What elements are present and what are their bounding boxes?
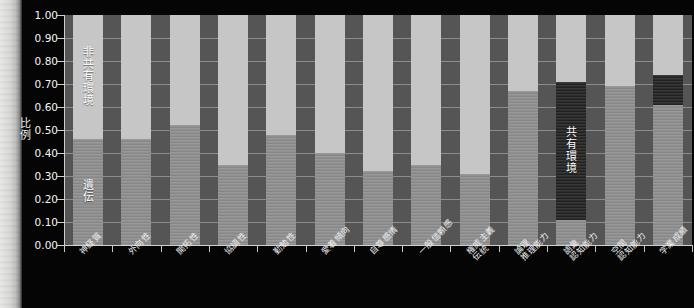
y-axis-tick-label: 0.10 [12, 217, 58, 227]
bar-column[interactable] [653, 15, 683, 245]
y-axis-tick-label: 0.30 [12, 171, 58, 181]
bar-column[interactable] [605, 15, 635, 245]
bar-segment-genetic[interactable] [653, 105, 683, 245]
x-axis-tick-mark [595, 246, 596, 252]
plot-area: 遺伝非共有環境共有環境 [64, 15, 692, 245]
bar-column[interactable] [363, 15, 393, 245]
annotation-char: 境 [564, 163, 578, 175]
bar-segment-genetic[interactable] [508, 91, 538, 245]
y-axis-tick-mark [56, 15, 64, 16]
x-axis-tick-mark [306, 246, 307, 252]
bar-segment-nonshared-env[interactable] [605, 15, 635, 86]
bar-column[interactable] [121, 15, 151, 245]
y-axis-tick-mark [56, 61, 64, 62]
bar-column[interactable] [315, 15, 345, 245]
y-axis-tick-label: 0.40 [12, 148, 58, 158]
x-axis-tick-mark [209, 246, 210, 252]
segment-annotation: 非共有環境 [81, 47, 95, 107]
y-axis-tick-label: 1.00 [12, 10, 58, 20]
x-axis-tick-mark [112, 246, 113, 252]
annotation-char: 境 [81, 95, 95, 107]
bar-segment-nonshared-env[interactable] [411, 15, 441, 165]
x-axis-tick-mark [547, 246, 548, 252]
x-axis-tick-mark [257, 246, 258, 252]
bar-segment-nonshared-env[interactable]: 非共有環境 [73, 15, 103, 139]
bar-segment-genetic[interactable]: 遺伝 [73, 139, 103, 245]
y-axis-tick-mark [56, 245, 64, 246]
segment-annotation: 共有環境 [564, 127, 578, 175]
bar-segment-nonshared-env[interactable] [218, 15, 248, 165]
x-axis-tick-mark [354, 246, 355, 252]
bar-column[interactable] [170, 15, 200, 245]
bar-column[interactable] [218, 15, 248, 245]
bar-segment-nonshared-env[interactable] [266, 15, 296, 135]
bar-segment-genetic[interactable] [170, 125, 200, 245]
bar-segment-nonshared-env[interactable] [556, 15, 586, 82]
x-axis-tick-mark [450, 246, 451, 252]
y-axis-tick-mark [56, 153, 64, 154]
bar-segment-genetic[interactable] [266, 135, 296, 245]
x-axis-labels: 神経質外向性開拓性協調性勤勉性愛着傾向自尊感情一般信頼感権威主義伝統論理推理能力… [0, 250, 694, 308]
y-axis-tick-label: 0.80 [12, 56, 58, 66]
x-axis-tick-mark [161, 246, 162, 252]
bar-segment-nonshared-env[interactable] [363, 15, 393, 171]
bar-segment-nonshared-env[interactable] [460, 15, 490, 174]
y-axis-tick-mark [56, 130, 64, 131]
bar-segment-nonshared-env[interactable] [653, 15, 683, 75]
x-axis-tick-mark [644, 246, 645, 252]
y-axis-tick-label: 0.00 [12, 240, 58, 250]
segment-annotation: 遺伝 [81, 180, 95, 204]
bar-column[interactable]: 遺伝非共有環境 [73, 15, 103, 245]
y-axis-tick-mark [56, 38, 64, 39]
bar-column[interactable] [266, 15, 296, 245]
y-axis-tick-label: 0.70 [12, 79, 58, 89]
bar-segment-nonshared-env[interactable] [508, 15, 538, 91]
y-axis-tick-mark [56, 107, 64, 108]
bar-column[interactable]: 共有環境 [556, 15, 586, 245]
bar-segment-shared-env[interactable]: 共有環境 [556, 82, 586, 220]
y-axis-tick-mark [56, 199, 64, 200]
y-axis-tick-mark [56, 222, 64, 223]
bar-column[interactable] [411, 15, 441, 245]
bar-segment-genetic[interactable] [605, 86, 635, 245]
bar-segment-nonshared-env[interactable] [170, 15, 200, 125]
stacked-bar-chart: 比 例 1.000.900.800.700.600.500.400.300.20… [0, 0, 694, 308]
bar-column[interactable] [460, 15, 490, 245]
x-axis-tick-mark [499, 246, 500, 252]
bar-column[interactable] [508, 15, 538, 245]
y-axis-tick-label: 0.50 [12, 125, 58, 135]
x-axis-tick-mark [402, 246, 403, 252]
y-axis-tick-label: 0.60 [12, 102, 58, 112]
bar-segment-nonshared-env[interactable] [121, 15, 151, 139]
bar-segment-genetic[interactable] [121, 139, 151, 245]
y-axis-line [64, 15, 65, 246]
bar-segment-nonshared-env[interactable] [315, 15, 345, 153]
annotation-char: 伝 [81, 192, 95, 204]
y-axis-tick-label: 0.20 [12, 194, 58, 204]
bar-segment-shared-env[interactable] [653, 75, 683, 105]
y-axis-tick-label: 0.90 [12, 33, 58, 43]
x-axis-tick-mark [64, 246, 65, 252]
x-axis-tick-mark [692, 246, 693, 252]
y-axis-tick-mark [56, 176, 64, 177]
y-axis-tick-mark [56, 84, 64, 85]
